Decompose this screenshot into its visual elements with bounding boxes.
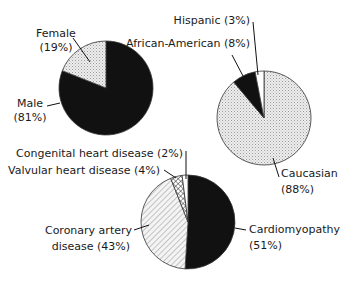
label-cardiomyopathy-pct: (51%) (249, 239, 282, 252)
label-caucasian: Caucasian (281, 167, 338, 180)
label-cardiomyopathy: Cardiomyopathy (249, 223, 340, 236)
label-coronary: Coronary artery (45, 224, 133, 237)
label-female-pct: (19%) (39, 41, 72, 54)
leader-valvular (164, 170, 176, 178)
label-african-american: African-American (8%) (126, 37, 250, 50)
label-coronary-pct: disease (43%) (52, 240, 130, 253)
gender-pie (59, 41, 153, 135)
pie-charts-figure: Female (19%) Male (81%) Hispanic (3%) Af… (0, 0, 347, 282)
leader-male (47, 103, 60, 106)
race-pie (217, 71, 311, 165)
label-congenital: Congenital heart disease (2%) (16, 147, 183, 160)
label-caucasian-pct: (88%) (281, 183, 314, 196)
label-male-pct: (81%) (13, 111, 46, 124)
label-male: Male (17, 97, 43, 110)
leader-hispanic (253, 22, 258, 75)
label-valvular: Valvular heart disease (4%) (8, 164, 160, 177)
label-hispanic: Hispanic (3%) (174, 14, 250, 27)
label-female: Female (36, 27, 76, 40)
pie-slice-cardiomyopathy (185, 175, 235, 269)
etiology-pie (141, 175, 235, 269)
leader-cardiomyopathy (235, 228, 246, 230)
leader-african-american (232, 55, 243, 76)
